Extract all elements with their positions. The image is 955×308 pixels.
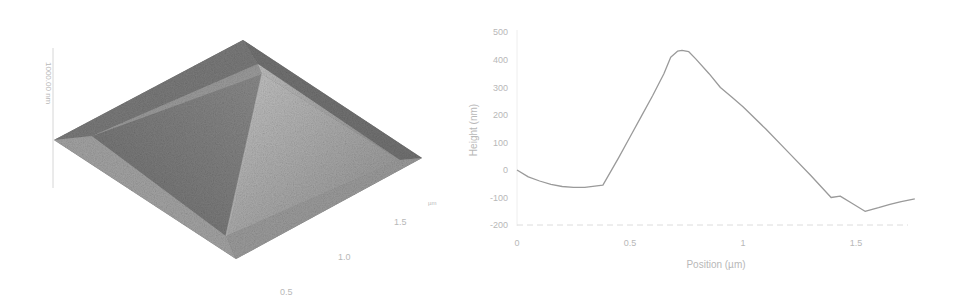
xy-unit-label: µm	[428, 200, 436, 206]
y-tick: 500	[493, 27, 508, 37]
x-tick: 1	[740, 238, 745, 248]
x-axis-title: Position (µm)	[686, 259, 745, 270]
x-tick: 0.5	[624, 238, 637, 248]
x-axis-ticks: 0 0.5 1 1.5	[514, 238, 862, 248]
y-tick: 0	[503, 165, 508, 175]
afm-3d-surface: 1000.00 nm µm 1.5 1.0 0.5	[0, 0, 470, 308]
height-profile-line	[517, 50, 915, 211]
z-axis-label: 1000.00 nm	[44, 62, 53, 105]
x-tick: 0	[514, 238, 519, 248]
xy-tick-1-5: 1.5	[394, 217, 407, 227]
y-axis-ticks: 500 400 300 200 100 0 -100 -200	[490, 27, 508, 230]
y-tick: 300	[493, 83, 508, 93]
y-axis-title: Height (nm)	[468, 104, 479, 156]
xy-tick-0-5: 0.5	[280, 287, 293, 297]
y-tick: -100	[490, 193, 508, 203]
afm-3d-surface-panel: 1000.00 nm µm 1.5 1.0 0.5	[0, 0, 470, 308]
y-tick: -200	[490, 220, 508, 230]
y-tick: 100	[493, 138, 508, 148]
height-profile-chart: 500 400 300 200 100 0 -100 -200 0 0.5 1 …	[460, 0, 955, 308]
y-tick: 200	[493, 110, 508, 120]
y-tick: 400	[493, 55, 508, 65]
xy-tick-1-0: 1.0	[338, 252, 351, 262]
x-tick: 1.5	[850, 238, 863, 248]
surface-mesh	[54, 40, 422, 259]
profile-plot: 500 400 300 200 100 0 -100 -200 0 0.5 1 …	[460, 0, 955, 308]
